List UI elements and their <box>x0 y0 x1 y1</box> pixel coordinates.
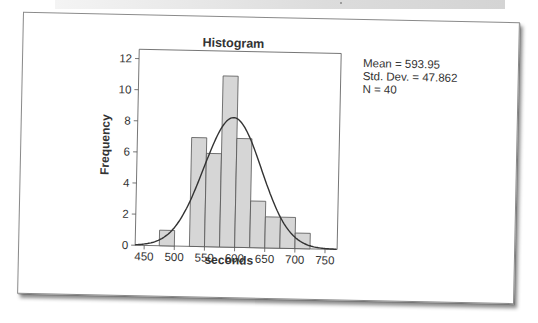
y-tick-label: 6 <box>124 146 131 158</box>
histogram-chart: Histogram 024681012450500550600650700750… <box>18 13 519 303</box>
x-tick-label: 650 <box>255 253 274 265</box>
n-label: N = 40 <box>362 83 457 98</box>
plot-area: 024681012450500550600650700750 <box>115 49 341 267</box>
x-tick-label: 450 <box>134 250 153 262</box>
figure-card: Histogram 024681012450500550600650700750… <box>17 12 520 304</box>
histogram-bar <box>265 217 281 248</box>
y-tick-label: 4 <box>123 177 130 189</box>
y-axis-label: Frequency <box>98 114 113 175</box>
y-tick-label: 2 <box>122 208 129 220</box>
histogram-bar <box>189 137 206 246</box>
x-axis-label: seconds <box>204 253 253 268</box>
x-tick-label: 700 <box>285 253 304 265</box>
histogram-bar <box>204 153 221 247</box>
x-tick-label: 750 <box>315 254 334 266</box>
y-tick-label: 12 <box>119 52 132 64</box>
histogram-bar <box>235 138 252 247</box>
summary-stats: Mean = 593.95 Std. Dev. = 47.862 N = 40 <box>362 57 458 98</box>
x-tick-label: 500 <box>164 251 183 263</box>
histogram-bar <box>250 201 266 248</box>
page-top-band <box>55 0 505 9</box>
y-tick-label: 8 <box>124 115 131 127</box>
y-tick-label: 10 <box>118 83 131 95</box>
chart-title: Histogram <box>202 36 264 51</box>
page-mark <box>340 2 342 4</box>
y-tick-label: 0 <box>122 239 129 251</box>
histogram-bar <box>295 233 310 249</box>
